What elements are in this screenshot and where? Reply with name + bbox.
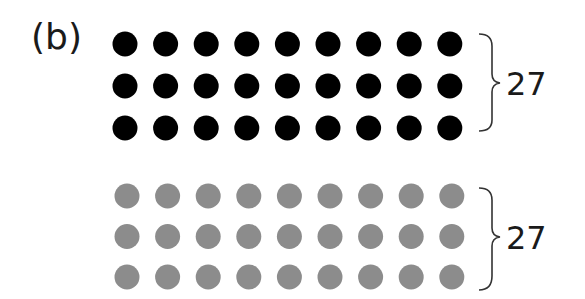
black-dot-group — [113, 32, 463, 141]
dot — [439, 265, 464, 290]
dot — [275, 32, 300, 57]
dot — [194, 32, 219, 57]
dot — [113, 74, 138, 99]
dot — [115, 224, 140, 249]
dot — [399, 184, 424, 209]
dot — [316, 32, 341, 57]
gray-group-brace — [479, 188, 500, 290]
dot — [194, 116, 219, 141]
dot — [113, 116, 138, 141]
dot — [437, 74, 462, 99]
dot — [196, 265, 221, 290]
dot — [399, 265, 424, 290]
dot — [356, 74, 381, 99]
dot — [277, 265, 302, 290]
dot — [399, 224, 424, 249]
dot — [155, 184, 180, 209]
dot-diagram: 27 27 — [0, 0, 585, 299]
dot — [439, 184, 464, 209]
dot — [358, 184, 383, 209]
dot — [358, 224, 383, 249]
dot — [153, 74, 178, 99]
dot — [115, 184, 140, 209]
black-group-count: 27 — [506, 65, 547, 103]
dot — [236, 224, 261, 249]
dot — [234, 32, 259, 57]
dot — [277, 224, 302, 249]
dot — [437, 116, 462, 141]
dot — [356, 116, 381, 141]
dot — [358, 265, 383, 290]
dot — [439, 224, 464, 249]
dot — [155, 224, 180, 249]
dot — [397, 32, 422, 57]
dot — [316, 116, 341, 141]
dot — [318, 184, 343, 209]
dot — [153, 32, 178, 57]
dot — [153, 116, 178, 141]
dot — [397, 116, 422, 141]
dot — [196, 184, 221, 209]
dot — [397, 74, 422, 99]
dot — [234, 74, 259, 99]
dot — [356, 32, 381, 57]
dot — [437, 32, 462, 57]
dot — [236, 265, 261, 290]
dot — [155, 265, 180, 290]
dot — [196, 224, 221, 249]
dot — [234, 116, 259, 141]
gray-dot-group — [115, 184, 465, 290]
dot — [275, 116, 300, 141]
dot — [316, 74, 341, 99]
dot — [275, 74, 300, 99]
black-group-brace — [479, 34, 500, 131]
dot — [194, 74, 219, 99]
dot — [318, 224, 343, 249]
dot — [236, 184, 261, 209]
dot — [277, 184, 302, 209]
dot — [115, 265, 140, 290]
dot — [318, 265, 343, 290]
gray-group-count: 27 — [506, 219, 547, 257]
dot — [113, 32, 138, 57]
